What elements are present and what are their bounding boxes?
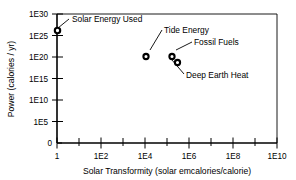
- x-tick-label-1E4: 1E4: [138, 152, 153, 161]
- label-fossil-fuels: Fossil Fuels: [194, 37, 239, 47]
- data-point-tide-energy: [143, 54, 148, 59]
- x-tick-label-1E10: 1E10: [267, 152, 287, 161]
- x-tick-label-1E6: 1E6: [182, 152, 197, 161]
- y-tick-label-0: 0: [47, 139, 52, 148]
- y-tick-label-1E25: 1E25: [29, 32, 49, 41]
- y-axis-title: Power (calories / yr): [6, 41, 16, 118]
- x-tick-label-1E8: 1E8: [226, 152, 241, 161]
- y-tick-label-1E30: 1E30: [29, 10, 49, 19]
- scatter-plot-svg: 0 1E5 1E10 1E15 1E20 1E25 1E30 1 1E2 1E4: [0, 0, 296, 180]
- chart-figure: 0 1E5 1E10 1E15 1E20 1E25 1E30 1 1E2 1E4: [0, 0, 296, 180]
- label-tide-energy: Tide Energy: [164, 25, 210, 35]
- data-point-fossil-fuels: [169, 54, 174, 59]
- x-axis-title: Solar Transformity (solar emcalories/cal…: [83, 166, 251, 176]
- data-point-solar-energy-used: [55, 28, 60, 33]
- y-tick-label-1E5: 1E5: [33, 118, 48, 127]
- label-solar-energy-used: Solar Energy Used: [72, 14, 143, 24]
- label-deep-earth-heat: Deep Earth Heat: [186, 70, 249, 80]
- y-tick-label-1E15: 1E15: [29, 75, 49, 84]
- x-tick-label-1: 1: [55, 152, 60, 161]
- data-point-deep-earth-heat: [175, 60, 180, 65]
- x-tick-label-1E2: 1E2: [94, 152, 109, 161]
- y-tick-label-1E10: 1E10: [29, 96, 49, 105]
- y-tick-label-1E20: 1E20: [29, 53, 49, 62]
